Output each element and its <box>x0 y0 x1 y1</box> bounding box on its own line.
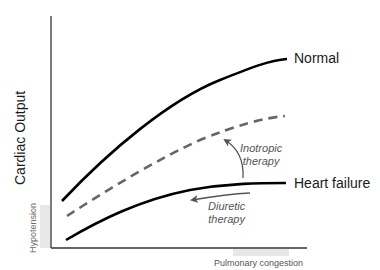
x-axis-label: Pulmonary congestion <box>214 258 303 268</box>
diuretic-label-line1: Diuretic <box>208 200 245 213</box>
heart-failure-label: Heart failure <box>294 175 370 191</box>
diuretic-label-line2: therapy <box>208 213 245 226</box>
inotropic-label-line2: therapy <box>240 155 282 168</box>
cardiac-output-diagram: Cardiac Output Hypotension Pulmonary con… <box>0 0 380 270</box>
hypotension-label: Hypotension <box>28 203 38 253</box>
normal-label: Normal <box>294 50 339 66</box>
y-axis-label: Cardiac Output <box>12 91 28 185</box>
inotropic-label-line1: Inotropic <box>240 142 282 155</box>
diuretic-therapy-label: Diuretic therapy <box>208 200 245 226</box>
pulmonary-congestion-region <box>233 249 289 256</box>
normal-curve <box>62 59 287 201</box>
inotropic-therapy-label: Inotropic therapy <box>240 142 282 168</box>
diuretic-arrow-icon <box>192 193 250 200</box>
hypotension-region <box>40 205 50 248</box>
diagram-canvas <box>0 0 380 270</box>
heart-failure-curve <box>66 183 286 240</box>
